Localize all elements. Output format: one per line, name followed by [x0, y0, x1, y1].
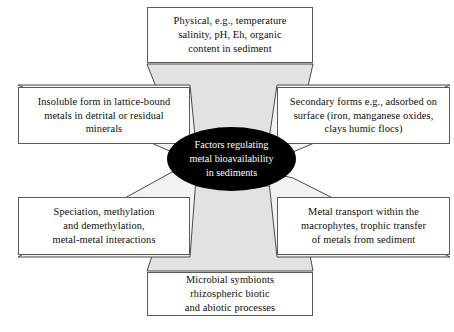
node-right-upper[interactable]: Secondary forms e.g., adsorbed on surfac… [277, 87, 450, 144]
hub-label: Factors regulating metal bioavailability… [189, 138, 273, 179]
node-right-upper-label: Secondary forms e.g., adsorbed on surfac… [286, 95, 441, 136]
node-bottom[interactable]: Microbial symbionts rhizospheric biotic … [147, 272, 313, 316]
node-right-lower[interactable]: Metal transport within the macrophytes, … [277, 197, 450, 255]
diagram-canvas: Physical, e.g., temperature salinity, pH… [0, 0, 454, 332]
node-top[interactable]: Physical, e.g., temperature salinity, pH… [147, 7, 313, 63]
node-bottom-label: Microbial symbionts rhizospheric biotic … [181, 273, 279, 314]
node-left-lower-label: Speciation, methylation and demethylatio… [48, 205, 159, 246]
node-top-label: Physical, e.g., temperature salinity, pH… [170, 14, 291, 55]
hub-ellipse[interactable]: Factors regulating metal bioavailability… [167, 127, 296, 191]
node-left-lower[interactable]: Speciation, methylation and demethylatio… [18, 197, 190, 255]
node-left-upper[interactable]: Insoluble form in lattice-bound metals i… [18, 87, 190, 144]
node-left-upper-label: Insoluble form in lattice-bound metals i… [34, 95, 175, 136]
node-right-lower-label: Metal transport within the macrophytes, … [297, 205, 430, 246]
